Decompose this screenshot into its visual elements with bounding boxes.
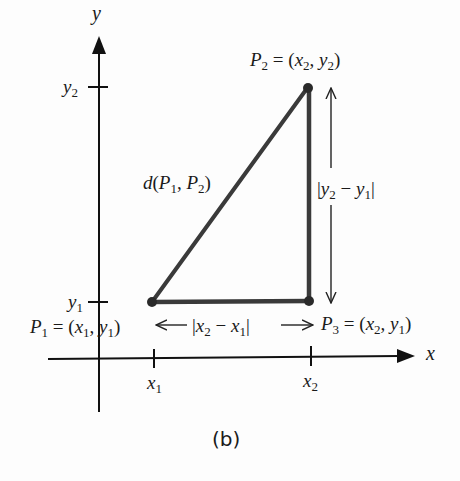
p3-label: P3 = (x2, y1) [320,313,411,337]
x2-tick-label: x2 [302,370,318,394]
figure-caption: (b) [212,427,240,451]
point-p1 [147,297,157,307]
y2-tick-label: y2 [61,76,78,100]
y-axis-label: y [90,2,101,25]
x-axis [48,346,415,368]
x-axis-label: x [425,342,435,364]
p2-label: P2 = (x2, y2) [249,49,340,73]
distance-formula-figure: y x y2 y1 x1 x2 P2 = (x2, y2) P1 = (x1, … [0,0,460,481]
y-axis [88,36,108,412]
y-axis-arrow-icon [92,36,106,54]
vertical-leg-label: |y2 − y1| [317,178,375,202]
p1-label: P1 = (x1, y1) [29,316,120,340]
point-p2 [303,83,313,93]
point-p3 [304,296,314,306]
x-axis-arrow-icon [397,349,415,363]
hypotenuse-label: d(P1, P2) [143,172,211,196]
x1-tick-label: x1 [146,372,162,396]
y1-tick-label: y1 [66,291,83,315]
horizontal-leg-label: |x2 − x1| [192,315,250,339]
horizontal-leg-line [152,301,309,302]
